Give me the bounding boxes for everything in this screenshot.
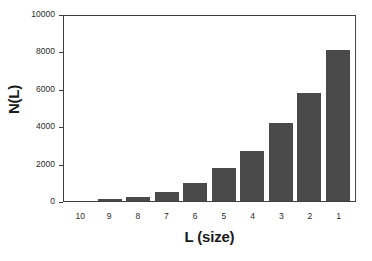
bar <box>155 192 179 201</box>
bar <box>98 199 122 201</box>
bar-slot <box>238 16 267 201</box>
bar <box>212 168 236 201</box>
y-tick-label: 10000 <box>31 10 55 19</box>
y-tick-label: 4000 <box>36 122 55 131</box>
x-tick-label: 9 <box>107 211 112 221</box>
x-tick-slot: 2 <box>296 205 325 223</box>
bar-series <box>64 16 355 201</box>
x-tick-slot: 9 <box>95 205 124 223</box>
bar-chart-figure: N(L) 0200040006000800010000 10987654321 … <box>0 0 372 261</box>
x-tick-label: 6 <box>193 211 198 221</box>
x-tick-label: 4 <box>250 211 255 221</box>
x-tick-slot: 1 <box>324 205 353 223</box>
x-tick-slot: 4 <box>238 205 267 223</box>
x-tick-slot: 6 <box>181 205 210 223</box>
x-tick-label: 1 <box>336 211 341 221</box>
x-axis-ticks: 10987654321 <box>63 205 356 223</box>
x-tick-label: 8 <box>135 211 140 221</box>
y-tick-label: 6000 <box>36 85 55 94</box>
bar <box>297 93 321 201</box>
y-tick-mark <box>59 202 63 203</box>
x-tick-label: 3 <box>279 211 284 221</box>
bar <box>326 50 350 201</box>
x-tick-slot: 10 <box>66 205 95 223</box>
x-tick-slot: 5 <box>210 205 239 223</box>
bar-slot <box>324 16 353 201</box>
bar-slot <box>67 16 96 201</box>
bar <box>126 197 150 201</box>
x-tick-slot: 3 <box>267 205 296 223</box>
x-tick-slot: 8 <box>123 205 152 223</box>
y-tick-label: 8000 <box>36 47 55 56</box>
x-tick-label: 10 <box>76 211 85 221</box>
x-axis-title: L (size) <box>63 228 356 245</box>
bar-slot <box>153 16 182 201</box>
bar <box>269 123 293 201</box>
bar-slot <box>96 16 125 201</box>
bar-slot <box>124 16 153 201</box>
bar-slot <box>295 16 324 201</box>
bar-slot <box>210 16 239 201</box>
bar-slot <box>267 16 296 201</box>
bar <box>240 151 264 201</box>
y-tick-label: 2000 <box>36 160 55 169</box>
y-tick-label: 0 <box>50 197 55 206</box>
x-tick-label: 5 <box>222 211 227 221</box>
y-axis-ticks: 0200040006000800010000 <box>0 0 59 261</box>
plot-area <box>63 15 356 202</box>
x-tick-label: 7 <box>164 211 169 221</box>
x-tick-slot: 7 <box>152 205 181 223</box>
bar-slot <box>181 16 210 201</box>
x-tick-label: 2 <box>308 211 313 221</box>
bar <box>183 183 207 201</box>
